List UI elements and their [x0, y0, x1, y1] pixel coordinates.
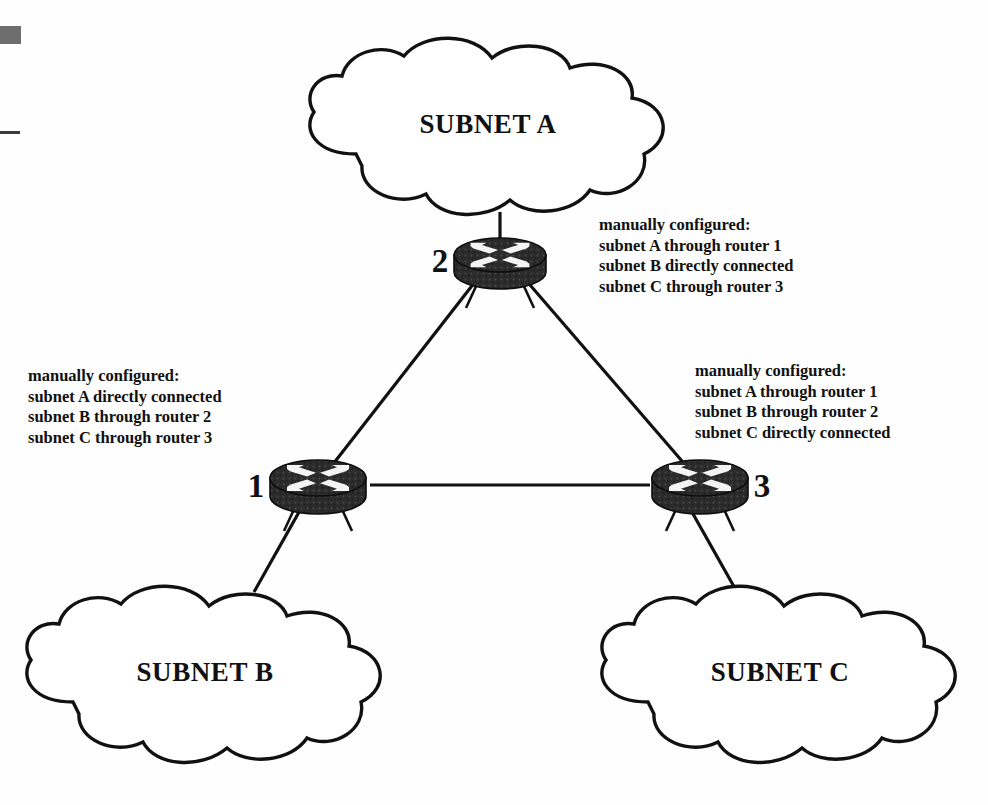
annotation-router-1: manually configured: subnet A directly c…	[28, 366, 222, 448]
annotation-router-2-line-2: subnet A through router 1	[599, 236, 793, 257]
router-2-number: 2	[432, 243, 449, 279]
annotation-router-3: manually configured: subnet A through ro…	[695, 361, 890, 443]
annotation-router-2-line-1: manually configured:	[599, 215, 793, 236]
link-router3-subnet-c	[688, 505, 737, 592]
router-2-top-disc	[454, 238, 546, 272]
annotation-router-1-line-2: subnet A directly connected	[28, 387, 222, 408]
annotation-router-1-line-4: subnet C through router 3	[28, 428, 222, 449]
cloud-subnet-c[interactable]: SUBNET C	[602, 586, 955, 762]
annotation-router-3-line-2: subnet A through router 1	[695, 382, 890, 403]
router-3-top-disc	[652, 460, 748, 496]
router-3-number: 3	[754, 468, 771, 504]
router-1-number: 1	[248, 468, 265, 504]
cloud-subnet-a[interactable]: SUBNET A	[310, 38, 663, 214]
cloud-label-subnet-b: SUBNET B	[136, 657, 273, 687]
link-router1-router2	[330, 278, 478, 468]
annotation-router-3-line-3: subnet B through router 2	[695, 402, 890, 423]
cloud-label-subnet-a: SUBNET A	[419, 109, 556, 139]
annotation-router-2-line-4: subnet C through router 3	[599, 277, 793, 298]
annotation-router-1-line-1: manually configured:	[28, 366, 222, 387]
diagram-canvas: SUBNET A SUBNET B SUBNET C 2	[0, 0, 988, 805]
cloud-label-subnet-c: SUBNET C	[711, 657, 850, 687]
annotation-router-1-line-3: subnet B through router 2	[28, 407, 222, 428]
link-router2-router3	[524, 278, 688, 468]
router-1[interactable]: 1	[248, 460, 366, 531]
link-router1-subnet-b	[254, 505, 303, 592]
router-1-top-disc	[270, 460, 366, 496]
annotation-router-3-line-4: subnet C directly connected	[695, 423, 890, 444]
annotation-router-2-line-3: subnet B directly connected	[599, 256, 793, 277]
annotation-router-3-line-1: manually configured:	[695, 361, 890, 382]
cloud-subnet-b[interactable]: SUBNET B	[27, 586, 380, 762]
router-3[interactable]: 3	[652, 460, 770, 531]
annotation-router-2: manually configured: subnet A through ro…	[599, 215, 793, 297]
router-2[interactable]: 2	[432, 238, 546, 308]
